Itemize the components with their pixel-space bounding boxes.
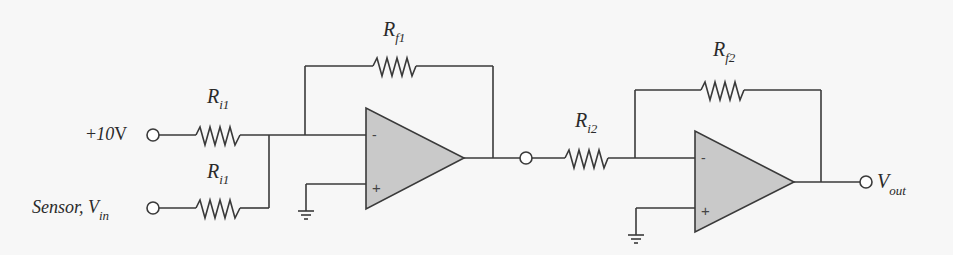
ri2-label: Ri2 bbox=[574, 109, 598, 136]
circuit-diagram: +10V Ri1 Sensor, Vin Ri1 Rf1 bbox=[0, 0, 953, 255]
opamp2-plus: + bbox=[701, 202, 710, 219]
opamp1-plus: + bbox=[372, 179, 381, 196]
rf2-label: Rf2 bbox=[712, 38, 736, 65]
vout-label: Vout bbox=[877, 170, 906, 198]
resistor-ri1-top bbox=[196, 127, 240, 145]
input-sensor: Sensor, Vin Ri1 bbox=[32, 135, 269, 223]
opamp-1: - + bbox=[298, 108, 532, 219]
stage1-output-terminal bbox=[520, 152, 532, 164]
ri1-bottom-label: Ri1 bbox=[206, 160, 229, 187]
input-vref: +10V Ri1 bbox=[86, 85, 366, 145]
resistor-ri2 bbox=[565, 150, 608, 168]
ri1-top-label: Ri1 bbox=[206, 85, 229, 112]
resistor-rf1 bbox=[373, 58, 416, 76]
opamp-triangle bbox=[695, 131, 794, 232]
rf1-label: Rf1 bbox=[382, 18, 405, 45]
resistor-rf2 bbox=[701, 82, 744, 100]
opamp1-minus: - bbox=[372, 127, 377, 143]
sensor-terminal bbox=[147, 202, 159, 214]
opamp-2: - + Vout bbox=[628, 131, 906, 243]
opamp2-minus: - bbox=[701, 150, 706, 166]
vref-terminal bbox=[147, 129, 159, 141]
ground-icon bbox=[628, 235, 644, 243]
vref-label: +10V bbox=[86, 124, 127, 144]
sensor-label: Sensor, Vin bbox=[32, 197, 109, 223]
vout-terminal bbox=[860, 176, 872, 188]
ground-icon bbox=[298, 211, 314, 219]
resistor-ri1-bottom bbox=[196, 200, 240, 218]
stage2-input: Ri2 bbox=[532, 109, 695, 168]
